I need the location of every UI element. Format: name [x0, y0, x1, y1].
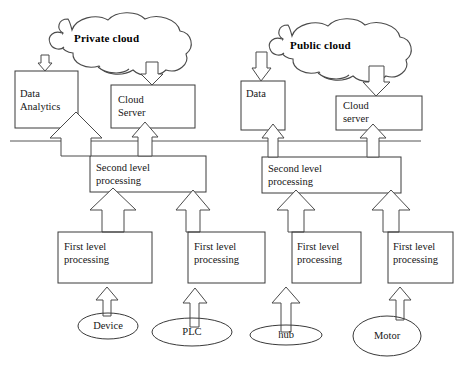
device-label: Device	[78, 320, 138, 331]
arrow-private-cloud-to-data-analytics	[38, 55, 52, 71]
plc-label: PLC	[162, 326, 222, 337]
diagram-canvas: Private cloud Public cloud Data Analytic…	[0, 0, 467, 374]
second-level-left-label: Second level processing	[96, 161, 150, 187]
first-level-4-label: First level processing	[393, 240, 438, 266]
first-level-3-label: First level processing	[297, 240, 342, 266]
arrow-motor-to-first-level-4	[389, 287, 411, 320]
second-level-right-label: Second level processing	[268, 162, 322, 188]
arrow-first-level-2-to-second-level-left	[176, 190, 210, 232]
diagram-vector-layer	[0, 0, 467, 374]
cloud-server-private-label: Cloud Server	[118, 93, 145, 119]
cloud-server-public-label: Cloud server	[343, 99, 369, 125]
arrow-device-to-first-level-1	[96, 287, 118, 316]
data-label: Data	[246, 87, 266, 100]
first-level-1-label: First level processing	[64, 240, 109, 266]
arrow-plc-to-first-level-2	[183, 288, 207, 327]
arrow-first-level-1-to-second-level-left	[90, 188, 136, 232]
arrow-second-level-left-to-cloud-server	[132, 122, 158, 156]
private-cloud-shape	[59, 13, 191, 76]
arrow-second-level-left-to-data-analytics	[50, 112, 102, 156]
data-analytics-label: Data Analytics	[20, 87, 60, 113]
first-level-2-label: First level processing	[194, 240, 239, 266]
motor-label: Motor	[357, 330, 417, 341]
private-cloud-lobe-left	[49, 32, 64, 49]
arrow-first-level-3-to-second-level-right	[277, 190, 315, 232]
public-cloud-lobe-left	[269, 38, 284, 55]
arrow-first-level-4-to-second-level-right	[372, 190, 410, 232]
public-cloud-label: Public cloud	[290, 39, 351, 51]
private-cloud-label: Private cloud	[74, 32, 139, 44]
arrow-public-cloud-to-data	[252, 52, 271, 81]
hub-label: hub	[256, 329, 316, 340]
